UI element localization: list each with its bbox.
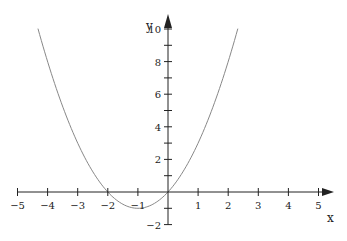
axes-layer — [18, 14, 335, 225]
x-tick-label: 5 — [315, 200, 321, 211]
x-tick-label: 1 — [195, 200, 201, 211]
y-tick-label: 2 — [155, 154, 161, 165]
x-axis-title: x — [327, 211, 334, 225]
x-tick-label: −5 — [10, 200, 25, 211]
y-axis-title: y — [145, 19, 153, 33]
chart: −5−4−3−2−112345−2246810 x y — [0, 0, 347, 241]
y-tick-label: −2 — [146, 220, 161, 231]
x-tick-label: −3 — [70, 200, 85, 211]
function-curve — [38, 29, 238, 209]
x-tick-label: 4 — [285, 200, 291, 211]
curve-layer — [38, 29, 238, 209]
x-tick-label: −1 — [131, 200, 146, 211]
x-tick-label: 2 — [225, 200, 231, 211]
x-axis-arrow-icon — [322, 188, 334, 196]
y-tick-label: 8 — [155, 57, 161, 68]
y-axis-arrow-icon — [164, 14, 172, 28]
y-tick-label: 4 — [155, 122, 161, 133]
x-tick-label: −2 — [100, 200, 115, 211]
y-tick-label: 6 — [155, 89, 161, 100]
x-tick-label: 3 — [255, 200, 261, 211]
x-tick-label: −4 — [40, 200, 55, 211]
